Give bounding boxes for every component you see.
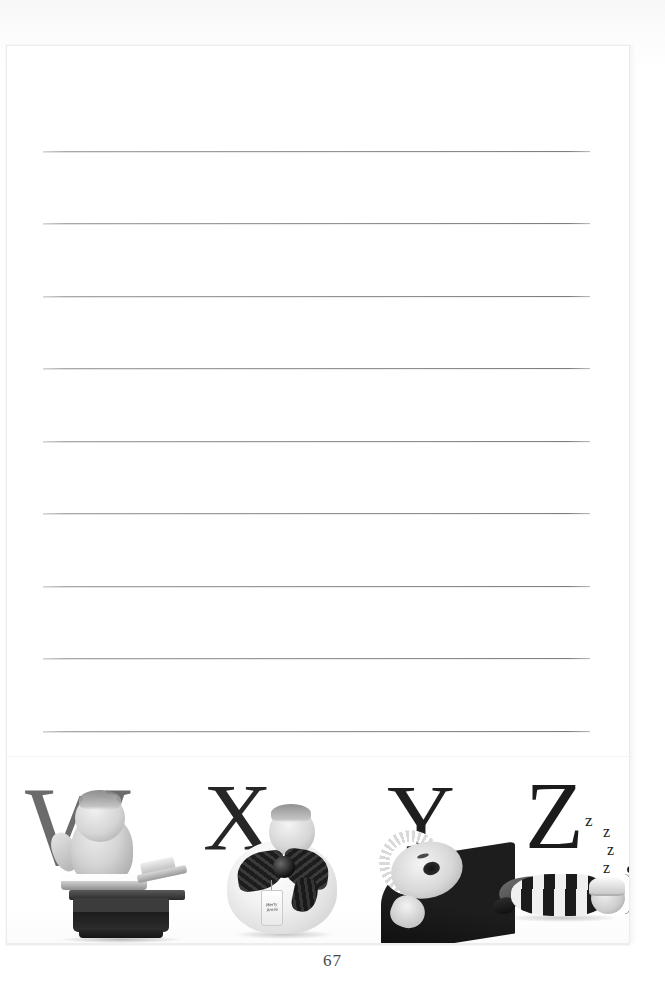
baby-hair [271, 804, 311, 822]
letter-panel-x: X Merry Xmas [197, 756, 349, 944]
paper-sheet: W X [6, 45, 630, 945]
ruled-line[interactable] [43, 586, 590, 587]
scale-foot [79, 930, 163, 938]
ruled-line[interactable] [43, 151, 590, 152]
gift-tag-text: Merry Xmas [264, 901, 281, 913]
snore-z-2: z [603, 824, 610, 840]
ruled-line[interactable] [43, 223, 590, 224]
letter-panel-y: Y [355, 756, 501, 944]
letter-panel-w: W [13, 756, 195, 944]
gift-bow-knot [273, 856, 295, 878]
scale-base [73, 898, 169, 932]
baby-hair [79, 790, 121, 810]
page-edge-shadow [629, 45, 637, 943]
alphabet-photo-strip: W X [7, 756, 629, 944]
journal-page: W X [0, 0, 665, 983]
nightcap-pompom [627, 866, 629, 873]
page-number: 67 [0, 951, 665, 971]
ruled-line[interactable] [43, 658, 590, 659]
ruled-line[interactable] [43, 296, 590, 297]
gift-tag: Merry Xmas [261, 890, 283, 926]
letter-panel-z: Z z z z z [503, 756, 629, 944]
baby-striped-pyjamas [511, 874, 603, 916]
ruled-line[interactable] [43, 368, 590, 369]
ruled-lines-area[interactable] [7, 46, 629, 746]
scale-pan [61, 874, 147, 890]
snore-z-3: z [607, 842, 614, 858]
strip-bottom-hairline [7, 943, 629, 944]
nightcap-tail [615, 874, 629, 914]
ruled-line[interactable] [43, 731, 590, 732]
letter-z-glyph: Z [525, 768, 583, 864]
snore-z-1: z [585, 812, 593, 829]
ruled-line[interactable] [43, 513, 590, 514]
snore-z-4: z [603, 860, 610, 876]
ruled-line[interactable] [43, 441, 590, 442]
